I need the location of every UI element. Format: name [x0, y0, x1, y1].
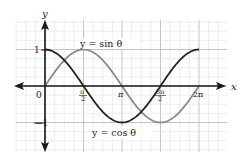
y-axis-label: y	[41, 8, 48, 19]
x-tick-label-pi: π	[117, 90, 124, 99]
x-tick-label-2pi: 2π	[193, 90, 203, 99]
x-tick-label-pi-half-den: 2	[81, 95, 85, 103]
origin-label: 0	[36, 90, 42, 100]
sine-cosine-chart: y x 0 1 −1 π 2 π 3π 2 2π y = sin θ y = c…	[0, 0, 248, 158]
y-tick-label-1: 1	[34, 45, 40, 55]
y-tick-label-neg1: −1	[35, 118, 48, 128]
cos-curve-label: y = cos θ	[91, 127, 136, 138]
sin-curve-label: y = sin θ	[79, 38, 122, 49]
x-axis-label: x	[231, 81, 237, 92]
x-tick-label-3pi-half-den: 2	[158, 95, 162, 103]
